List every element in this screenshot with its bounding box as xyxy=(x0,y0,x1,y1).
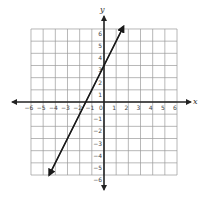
y-tick-label: 1 xyxy=(98,91,102,98)
y-tick-label: −6 xyxy=(93,176,102,183)
y-tick-label: 5 xyxy=(98,42,102,49)
plotted-line xyxy=(49,27,123,175)
x-tick-label: 3 xyxy=(137,104,141,111)
x-tick-label: 2 xyxy=(124,104,128,111)
x-axis-label: x xyxy=(193,97,198,106)
x-tick-label: 1 xyxy=(112,104,116,111)
y-axis-label: y xyxy=(99,5,105,14)
x-tick-label: −5 xyxy=(37,104,46,111)
x-tick-label: −2 xyxy=(73,104,82,111)
y-tick-label: −3 xyxy=(93,140,102,147)
x-tick-label: −6 xyxy=(25,104,34,111)
tick-labels: −6−5−4−3−2−10123456−6−5−4−3−2−1123456 xyxy=(25,30,178,183)
x-tick-label: 4 xyxy=(149,104,153,111)
coordinate-plane: −6−5−4−3−2−10123456−6−5−4−3−2−1123456 x … xyxy=(0,0,200,201)
y-tick-label: 2 xyxy=(98,79,102,86)
y-tick-label: −2 xyxy=(93,127,102,134)
x-tick-label: 6 xyxy=(173,104,177,111)
x-tick-label: 5 xyxy=(161,104,165,111)
x-tick-label: −1 xyxy=(85,104,94,111)
x-tick-label: −4 xyxy=(49,104,58,111)
line-arrow-down xyxy=(49,27,123,175)
x-tick-label: −3 xyxy=(61,104,70,111)
x-tick-label: 0 xyxy=(99,104,103,111)
y-tick-label: −5 xyxy=(93,164,102,171)
y-tick-label: −4 xyxy=(93,152,102,159)
y-tick-label: 4 xyxy=(98,54,102,61)
y-tick-label: 6 xyxy=(98,30,102,37)
y-tick-label: −1 xyxy=(93,115,102,122)
